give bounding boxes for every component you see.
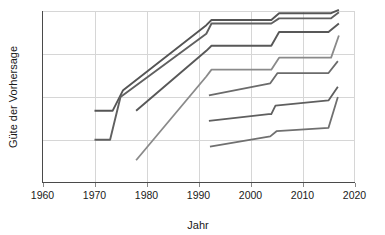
x-tick-label-2020: 2020 <box>343 189 367 201</box>
x-tick-label-1990: 1990 <box>187 189 211 201</box>
line-chart: 1960197019801990200020102020 Jahr Güte d… <box>0 0 385 235</box>
x-tick-label-1980: 1980 <box>135 189 159 201</box>
x-tick-label-1960: 1960 <box>31 189 55 201</box>
x-axis-title: Jahr <box>187 219 209 231</box>
x-tick-label-1970: 1970 <box>83 189 107 201</box>
chart-container: 1960197019801990200020102020 Jahr Güte d… <box>0 0 385 235</box>
x-tick-label-2010: 2010 <box>291 189 315 201</box>
x-tick-label-2000: 2000 <box>239 189 263 201</box>
y-axis-title: Güte der Vorhersage <box>7 46 19 148</box>
